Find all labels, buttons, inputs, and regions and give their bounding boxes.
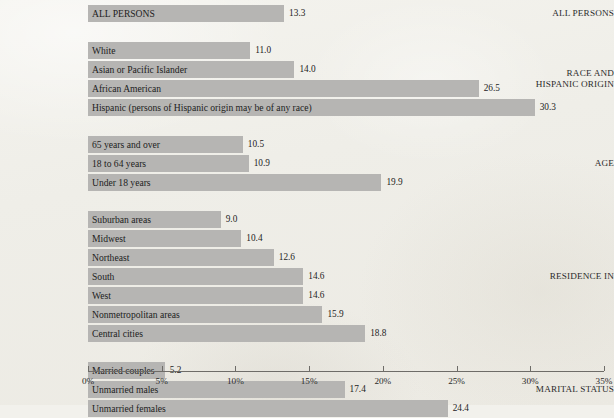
bar-category-label: African American: [92, 80, 161, 97]
bar-value-label: 10.4: [246, 230, 262, 247]
x-axis-tick: [88, 366, 89, 371]
bar-value-label: 10.5: [248, 136, 264, 153]
bar-row: Central cities18.8: [88, 325, 604, 342]
bar-value-label: 14.6: [308, 287, 324, 304]
bar-fill: [88, 287, 303, 304]
bar-category-label: Suburban areas: [92, 211, 151, 228]
group-label: RESIDENCE IN: [528, 271, 614, 282]
x-axis-tick-label: 25%: [448, 376, 465, 386]
bar-row: Asian or Pacific Islander14.0: [88, 61, 604, 78]
bar-row: Midwest10.4: [88, 230, 604, 247]
bar-row: South14.6: [88, 268, 604, 285]
bar-value-label: 17.4: [350, 381, 366, 398]
bar-category-label: Unmarried males: [92, 381, 158, 398]
group-label: AGE: [528, 158, 614, 169]
bar-value-label: 10.9: [254, 155, 270, 172]
x-axis-tick: [530, 366, 531, 371]
x-axis-tick-label: 20%: [374, 376, 391, 386]
bar-row: Under 18 years19.9: [88, 174, 604, 191]
bar-value-label: 13.3: [289, 5, 305, 22]
bar-row: White11.0: [88, 42, 604, 59]
bar-row: African American26.5: [88, 80, 604, 97]
bar-category-label: Unmarried females: [92, 400, 166, 417]
x-axis-tick-label: 5%: [156, 376, 168, 386]
x-axis-tick-label: 0%: [82, 376, 94, 386]
bar-value-label: 12.6: [279, 249, 295, 266]
bar-category-label: Midwest: [92, 230, 126, 247]
bar-value-label: 26.5: [484, 80, 500, 97]
bar-category-label: Under 18 years: [92, 174, 151, 191]
bar-value-label: 9.0: [226, 211, 238, 228]
bar-row: ALL PERSONS13.3: [88, 5, 604, 22]
x-axis-line: [88, 371, 604, 372]
x-axis-tick-label: 15%: [301, 376, 318, 386]
bar-value-label: 24.4: [453, 400, 469, 417]
bar-value-label: 11.0: [255, 42, 271, 59]
bar-category-label: Central cities: [92, 325, 143, 342]
bar-category-label: 65 years and over: [92, 136, 160, 153]
bar-category-label: Hispanic (persons of Hispanic origin may…: [92, 99, 312, 116]
group-label: ALL PERSONS: [528, 8, 614, 19]
group-label: RACE AND HISPANIC ORIGIN: [528, 68, 614, 91]
x-axis-tick-label: 30%: [522, 376, 539, 386]
bar-value-label: 14.0: [299, 61, 315, 78]
bar-row: West14.6: [88, 287, 604, 304]
bar-category-label: South: [92, 268, 114, 285]
x-axis-tick: [162, 366, 163, 371]
x-axis-tick-label: 10%: [227, 376, 244, 386]
bar-value-label: 18.8: [370, 325, 386, 342]
bar-category-label: 18 to 64 years: [92, 155, 146, 172]
bar-row: 18 to 64 years10.9: [88, 155, 604, 172]
bar-value-label: 30.3: [540, 99, 556, 116]
bar-value-label: 14.6: [308, 268, 324, 285]
bar-category-label: West: [92, 287, 111, 304]
bar-category-label: Asian or Pacific Islander: [92, 61, 187, 78]
x-axis-tick: [309, 366, 310, 371]
bar-row: Northeast12.6: [88, 249, 604, 266]
x-axis-tick: [604, 366, 605, 371]
x-axis-tick-label: 35%: [596, 376, 613, 386]
bar-row: 65 years and over10.5: [88, 136, 604, 153]
x-axis-tick: [235, 366, 236, 371]
bar-category-label: White: [92, 42, 115, 59]
bar-category-label: ALL PERSONS: [92, 5, 155, 22]
bar-value-label: 15.9: [327, 306, 343, 323]
bar-value-label: 19.9: [386, 174, 402, 191]
bar-category-label: Northeast: [92, 249, 129, 266]
x-axis-tick: [457, 366, 458, 371]
x-axis-tick: [383, 366, 384, 371]
bar-row: Unmarried females24.4: [88, 400, 604, 417]
bar-row: Hispanic (persons of Hispanic origin may…: [88, 99, 604, 116]
bar-fill: [88, 268, 303, 285]
bar-row: Suburban areas9.0: [88, 211, 604, 228]
bar-row: Nonmetropolitan areas15.9: [88, 306, 604, 323]
bar-category-label: Nonmetropolitan areas: [92, 306, 180, 323]
